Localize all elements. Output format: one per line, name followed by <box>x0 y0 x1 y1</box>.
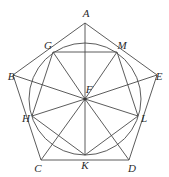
center-label-f: F <box>86 84 93 95</box>
spoke-f-e <box>85 75 157 99</box>
vertex-label-g: G <box>44 40 52 51</box>
vertex-label-a: A <box>83 8 90 19</box>
vertex-label-l: L <box>141 113 147 124</box>
geometry-figure: A B C D E G M L K H F <box>0 0 169 177</box>
vertex-label-c: C <box>34 163 41 174</box>
vertex-label-h: H <box>22 113 30 124</box>
vertex-label-d: D <box>128 163 136 174</box>
center-point-f <box>84 98 87 101</box>
vertex-label-m: M <box>117 40 126 51</box>
center-point-layer <box>84 98 87 101</box>
figure-canvas <box>0 0 169 177</box>
spoke-f-g <box>53 52 85 99</box>
spoke-f-l <box>85 99 138 116</box>
vertex-label-e: E <box>156 71 163 82</box>
vertex-label-b: B <box>8 71 15 82</box>
spoke-f-b <box>13 75 85 99</box>
vertex-label-k: K <box>81 160 88 171</box>
spoke-f-h <box>32 99 85 116</box>
